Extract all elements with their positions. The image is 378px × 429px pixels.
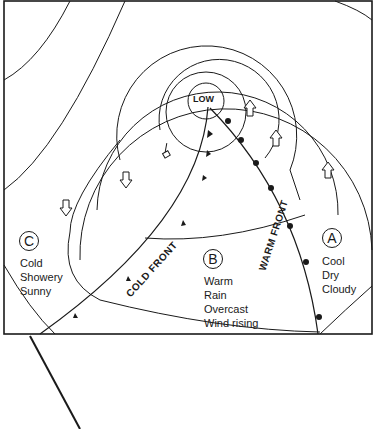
region-a-line: Dry: [322, 268, 356, 282]
cold-front-line: [40, 107, 208, 334]
region-a-line: Cloudy: [322, 282, 356, 296]
pointer-line: [30, 336, 80, 429]
region-a-marker: A: [322, 228, 342, 248]
region-c-description: Cold Showery Sunny: [20, 256, 63, 298]
region-b-line: Wind rising: [204, 316, 258, 330]
region-c-line: Sunny: [20, 284, 63, 298]
region-c-line: Cold: [20, 256, 63, 270]
region-b-line: Overcast: [204, 302, 258, 316]
region-c-marker: C: [19, 231, 39, 251]
region-b-line: Rain: [204, 288, 258, 302]
region-b-description: Warm Rain Overcast Wind rising: [204, 274, 258, 330]
region-c-line: Showery: [20, 270, 63, 284]
region-b-line: Warm: [204, 274, 258, 288]
region-a-line: Cool: [322, 254, 356, 268]
low-pressure-label: LOW: [193, 94, 214, 104]
cold-front-triangles: [73, 130, 213, 318]
region-b-marker: B: [203, 249, 223, 269]
region-a-description: Cool Dry Cloudy: [322, 254, 356, 296]
weather-map: [0, 0, 378, 429]
